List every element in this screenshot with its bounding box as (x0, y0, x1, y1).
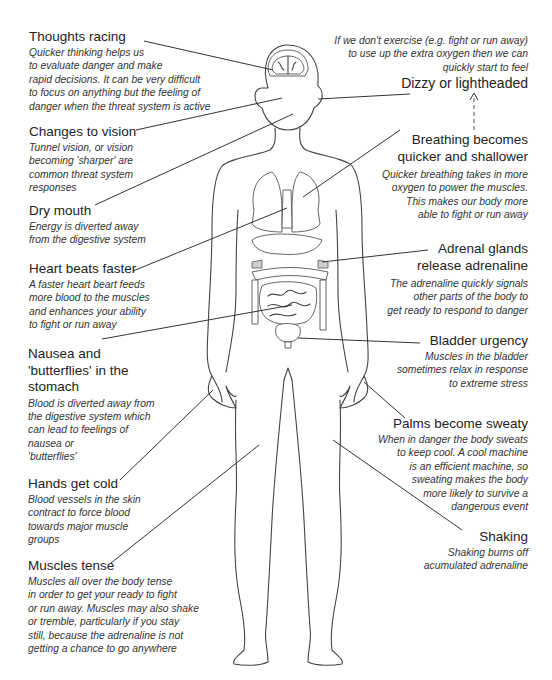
annotation-description: Quicker thinking helps us to evaluate da… (29, 46, 249, 113)
annotation-description: Muscles all over the body tense in order… (28, 575, 238, 655)
annotation-shaking: Shaking Shaking burns off acumulated adr… (368, 529, 528, 573)
annotation-title: Changes to vision (29, 124, 179, 140)
annotation-heart-beats-faster: Heart beats faster A faster heart beart … (29, 261, 189, 332)
annotation-title: Nausea and 'butterflies' in the stomach (28, 346, 193, 396)
leader-dizzy (318, 94, 410, 99)
right-lung (292, 172, 320, 232)
torso-outline (207, 128, 275, 402)
annotation-title: Hands get cold (28, 476, 188, 492)
organs (252, 172, 328, 348)
annotation-title: Thoughts racing (29, 29, 249, 45)
annotation-title: Palms become sweaty (328, 416, 528, 432)
annotation-dry-mouth: Dry mouth Energy is diverted away from t… (29, 203, 189, 247)
annotation-title: Shaking (368, 529, 528, 545)
colon (252, 268, 328, 281)
legs-outline (234, 380, 284, 665)
annotation-description: When in danger the body sweats to keep c… (328, 433, 528, 513)
annotation-description: A faster heart beart feeds more blood to… (29, 278, 189, 332)
annotation-description: Tunnel vision, or vision becoming 'sharp… (29, 141, 179, 195)
left-lung (252, 172, 282, 232)
annotation-description: Quicker breathing takes in more oxygen t… (328, 168, 528, 222)
annotation-title: Bladder urgency (328, 333, 528, 349)
annotation-changes-to-vision: Changes to vision Tunnel vision, or visi… (29, 124, 179, 195)
annotation-title: Breathing becomes quicker and shallower (328, 131, 528, 165)
annotation-description: Muscles in the bladder sometimes relax i… (328, 350, 528, 390)
annotation-title: Dizzy or lightheaded (288, 75, 528, 91)
annotation-description: Blood is diverted away from the digestiv… (28, 397, 193, 464)
annotation-title: Dry mouth (29, 203, 189, 219)
adrenal-gland-left (252, 260, 262, 268)
annotation-hands-get-cold: Hands get cold Blood vessels in the skin… (28, 476, 188, 547)
annotation-breathing: Breathing becomes quicker and shallower … (328, 131, 528, 222)
annotation-muscles-tense: Muscles tense Muscles all over the body … (28, 558, 238, 655)
annotation-preface: If we don't exercise (e.g. fight or run … (288, 34, 528, 74)
annotation-description: Blood vessels in the skin contract to fo… (28, 493, 188, 547)
annotation-title: Adrenal glands release adrenaline (328, 240, 528, 274)
annotation-dizzy: If we don't exercise (e.g. fight or run … (288, 33, 528, 91)
annotation-adrenal: Adrenal glands release adrenaline The ad… (328, 240, 528, 317)
intestines (259, 282, 316, 325)
left-hand (208, 376, 236, 408)
annotation-palms: Palms become sweaty When in danger the b… (328, 416, 528, 513)
annotation-description: Energy is diverted away from the digesti… (29, 220, 189, 247)
liver (252, 234, 322, 254)
annotation-nausea: Nausea and 'butterflies' in the stomach … (28, 346, 193, 464)
annotation-thoughts-racing: Thoughts racing Quicker thinking helps u… (29, 29, 249, 113)
annotation-description: The adrenaline quickly signals other par… (328, 277, 528, 317)
annotation-bladder: Bladder urgency Muscles in the bladder s… (328, 333, 528, 390)
annotation-title: Heart beats faster (29, 261, 189, 277)
annotation-title: Muscles tense (28, 558, 238, 574)
bladder (276, 324, 301, 343)
annotation-description: Shaking burns off acumulated adrenaline (368, 546, 528, 573)
